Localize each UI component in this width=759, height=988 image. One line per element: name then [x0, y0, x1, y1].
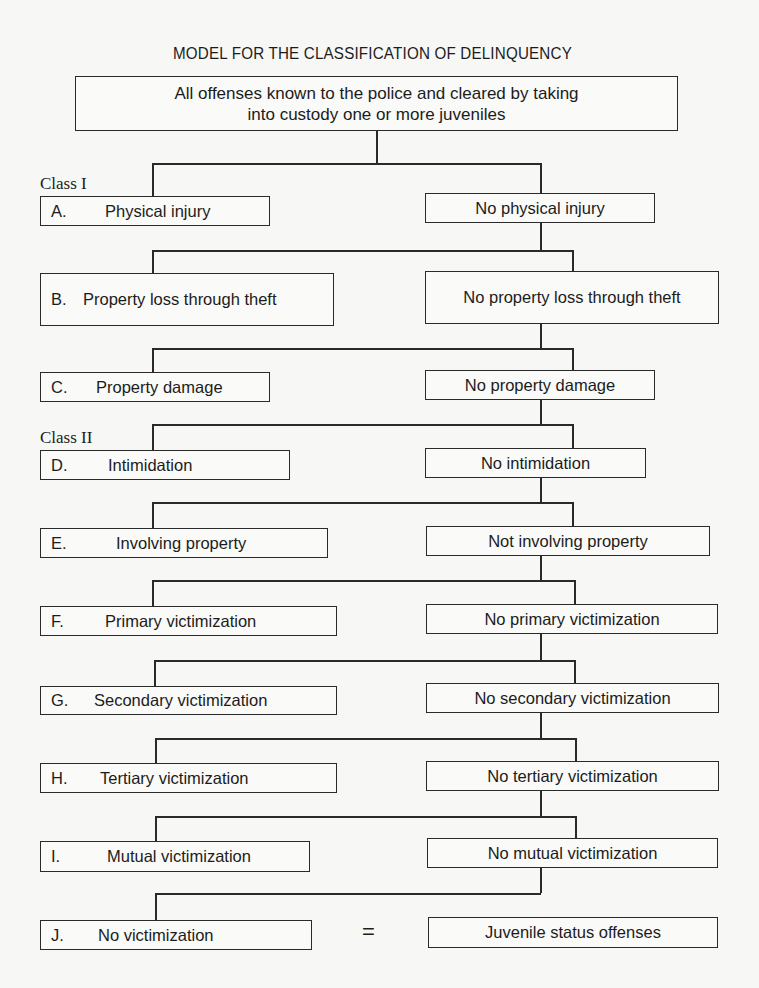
connector — [572, 250, 574, 271]
connector — [154, 660, 575, 662]
connector — [572, 502, 574, 526]
node-j-left: J. No victimization — [40, 920, 312, 950]
connector — [152, 502, 154, 528]
node-i-right: No mutual victimization — [427, 838, 718, 868]
node-h-right: No tertiary victimization — [426, 761, 719, 791]
connector — [154, 660, 156, 686]
connector — [574, 660, 576, 683]
connector — [575, 738, 577, 761]
connector — [540, 324, 542, 348]
node-d-left: D. Intimidation — [40, 450, 290, 480]
connector — [572, 348, 574, 370]
connector — [540, 400, 542, 424]
connector — [540, 634, 542, 660]
node-label: No property loss through theft — [426, 288, 718, 307]
node-label: Intimidation — [41, 456, 289, 475]
node-g-right: No secondary victimization — [426, 683, 719, 713]
connector — [152, 163, 154, 196]
connector — [540, 791, 542, 816]
node-h-left: H. Tertiary victimization — [40, 763, 337, 793]
class-2-label: Class II — [40, 428, 92, 448]
node-label: Tertiary victimization — [41, 769, 336, 788]
node-label: Secondary victimization — [41, 691, 336, 710]
root-text-line2: into custody one or more juveniles — [248, 104, 506, 125]
connector — [152, 250, 573, 252]
node-label: Property damage — [41, 378, 269, 397]
connector — [540, 478, 542, 502]
node-label: No primary victimization — [427, 610, 717, 629]
connector — [575, 816, 577, 838]
node-label: No intimidation — [426, 454, 645, 473]
connector — [152, 502, 573, 504]
connector — [152, 580, 154, 606]
connector — [574, 580, 576, 604]
node-letter: E. — [51, 534, 67, 553]
node-label: Primary victimization — [41, 612, 336, 631]
root-box: All offenses known to the police and cle… — [75, 76, 678, 131]
node-letter: F. — [51, 612, 64, 631]
node-label: No physical injury — [426, 199, 654, 218]
node-letter: I. — [51, 847, 60, 866]
node-letter: A. — [51, 202, 67, 221]
node-a-right: No physical injury — [425, 193, 655, 223]
node-i-left: I. Mutual victimization — [40, 841, 310, 872]
node-j-result: Juvenile status offenses — [428, 917, 718, 948]
connector — [155, 816, 157, 841]
connector — [152, 250, 154, 273]
connector — [540, 868, 542, 893]
node-label: No victimization — [41, 926, 311, 945]
node-c-left: C. Property damage — [40, 372, 270, 402]
node-b-right: No property loss through theft — [425, 271, 719, 324]
connector — [540, 223, 542, 250]
connector — [152, 348, 154, 372]
connector — [155, 893, 541, 895]
node-label: No tertiary victimization — [427, 767, 718, 786]
connector — [540, 713, 542, 738]
node-f-left: F. Primary victimization — [40, 606, 337, 636]
node-g-left: G. Secondary victimization — [40, 686, 337, 715]
connector — [155, 738, 576, 740]
node-label: No mutual victimization — [428, 844, 717, 863]
node-label: Not involving property — [427, 532, 709, 551]
connector — [540, 163, 542, 193]
connector — [540, 556, 542, 580]
page-title: MODEL FOR THE CLASSIFICATION OF DELINQUE… — [30, 44, 715, 63]
connector — [572, 424, 574, 448]
node-e-right: Not involving property — [426, 526, 710, 556]
connector — [152, 348, 573, 350]
connector — [152, 424, 573, 426]
node-label: Mutual victimization — [41, 847, 309, 866]
node-label: Involving property — [41, 534, 327, 553]
connector — [152, 424, 154, 450]
equals-sign: = — [362, 919, 375, 945]
node-letter: B. — [51, 290, 67, 309]
node-letter: J. — [51, 926, 64, 945]
node-letter: H. — [51, 769, 68, 788]
node-label: No secondary victimization — [427, 689, 718, 708]
node-e-left: E. Involving property — [40, 528, 328, 558]
node-label: No property damage — [426, 376, 654, 395]
connector — [152, 580, 575, 582]
connector — [155, 738, 157, 763]
root-text-line1: All offenses known to the police and cle… — [174, 83, 578, 104]
node-b-left: B. Property loss through theft — [40, 273, 334, 326]
node-label: Property loss through theft — [41, 290, 333, 309]
connector — [155, 893, 157, 920]
connector — [376, 131, 378, 163]
connector — [152, 163, 541, 165]
node-letter: G. — [51, 691, 68, 710]
connector — [155, 816, 576, 818]
class-1-label: Class I — [40, 174, 87, 194]
node-label: Juvenile status offenses — [429, 923, 717, 942]
node-c-right: No property damage — [425, 370, 655, 400]
node-letter: D. — [51, 456, 68, 475]
node-letter: C. — [51, 378, 68, 397]
node-d-right: No intimidation — [425, 448, 646, 478]
node-a-left: A. Physical injury — [40, 196, 270, 226]
node-f-right: No primary victimization — [426, 604, 718, 634]
node-label: Physical injury — [41, 202, 269, 221]
